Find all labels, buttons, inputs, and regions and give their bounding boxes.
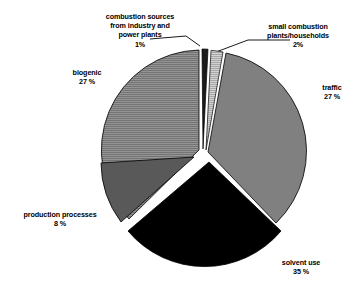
pie-label-small-combustion: small combustion plants/households 2% (248, 22, 348, 50)
pie-label-combustion-industry: combustion sources from industry and pow… (86, 12, 194, 49)
pie-label-biogenic: biogenic 27 % (56, 68, 118, 86)
pie-label-production-processes: production processes 8 % (10, 210, 110, 228)
pie-label-solvent-use: solvent use 35 % (268, 258, 334, 276)
pie-chart: combustion sources from industry and pow… (0, 0, 355, 290)
pie-label-traffic: traffic 27 % (312, 83, 352, 101)
